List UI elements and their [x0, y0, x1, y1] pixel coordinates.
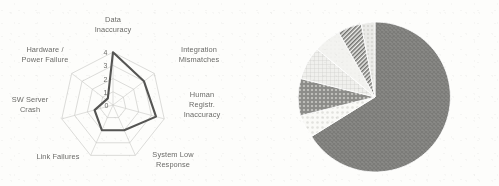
radar-axis-label-data-inaccuracy-2: Inaccuracy: [95, 25, 132, 34]
radar-axis-label-data-inaccuracy: Data: [105, 15, 122, 24]
radar-axis-label-link-failures: Link Failures: [36, 152, 79, 161]
radar-axis-label-sw-server-crash-2: Crash: [20, 105, 40, 114]
radar-tick-0: 0: [105, 102, 109, 109]
radar-axis-label-hardware-power-failure: Hardware /: [26, 45, 64, 54]
radar-axis-label-human-registr-inaccuracy-3: Inaccuracy: [184, 110, 221, 119]
radar-tick-3: 3: [104, 62, 108, 69]
radar-axis-label-system-low-response-2: Response: [156, 160, 190, 169]
pie-chart-panel: Data Inaccuracy Integration Mismatches H…: [250, 0, 499, 186]
radar-axis-label-system-low-response: System Low: [152, 150, 194, 159]
radar-chart-svg: 4 3 2 1 0 Data Inaccuracy Integration Mi…: [0, 0, 250, 186]
radar-axis-label-human-registr-inaccuracy: Human: [190, 90, 214, 99]
radar-tick-1: 1: [104, 89, 108, 96]
pie-slices: [298, 22, 450, 172]
radar-axis-label-human-registr-inaccuracy-2: Registr.: [189, 100, 215, 109]
radar-axis-label-sw-server-crash: SW Server: [12, 95, 49, 104]
radar-axis-label-integration-mismatches-2: Mismatches: [179, 55, 220, 64]
radar-tick-2: 2: [104, 76, 108, 83]
pie-chart-svg: [250, 0, 499, 186]
radar-chart-panel: 4 3 2 1 0 Data Inaccuracy Integration Mi…: [0, 0, 250, 186]
radar-axis-label-integration-mismatches: Integration: [181, 45, 217, 54]
radar-axis-label-hardware-power-failure-2: Power Failure: [22, 55, 69, 64]
radar-tick-4: 4: [104, 49, 108, 56]
figure-page: 4 3 2 1 0 Data Inaccuracy Integration Mi…: [0, 0, 499, 186]
